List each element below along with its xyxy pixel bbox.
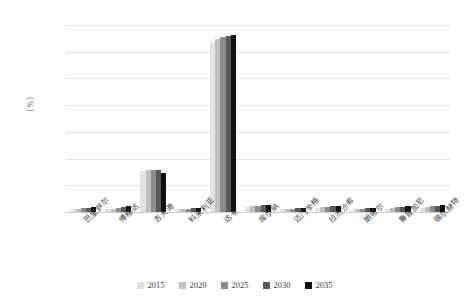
bar-group xyxy=(345,25,380,212)
bar-group xyxy=(310,25,345,212)
legend-item[interactable]: 2030 xyxy=(263,281,291,290)
x-axis-label-cell: 迈门辛格 xyxy=(275,213,310,271)
legend: 20152020202520302035 xyxy=(0,281,469,290)
bar-chart: （%） 0.05.010.015.020.025.030.035.0 巴里萨尔博… xyxy=(0,0,469,307)
bar-set xyxy=(315,25,341,212)
legend-item[interactable]: 2020 xyxy=(179,281,207,290)
x-axis-label-cell: 锡尔赫特 xyxy=(415,213,450,271)
bar-group xyxy=(171,25,206,212)
bar-set xyxy=(280,25,306,212)
x-axis-label-cell: 达卡 xyxy=(206,213,241,271)
bar-set xyxy=(210,25,236,212)
bar-group xyxy=(241,25,276,212)
bar-groups xyxy=(66,25,450,212)
bar-group xyxy=(415,25,450,212)
bar-group xyxy=(136,25,171,212)
legend-swatch xyxy=(305,282,312,289)
bar-group xyxy=(101,25,136,212)
legend-label: 2020 xyxy=(190,281,207,290)
bar-group xyxy=(66,25,101,212)
x-axis-category-labels: 巴里萨尔博格达吉大港科米利亚达卡库尔纳迈门辛格拉杰沙希朗布尔鲁普加尼锡尔赫特 xyxy=(66,213,450,271)
bar-group xyxy=(275,25,310,212)
legend-label: 2030 xyxy=(274,281,291,290)
x-axis-label-cell: 科米利亚 xyxy=(171,213,206,271)
x-axis-label-cell: 库尔纳 xyxy=(241,213,276,271)
legend-item[interactable]: 2025 xyxy=(221,281,249,290)
bar-set xyxy=(420,25,446,212)
legend-item[interactable]: 2035 xyxy=(305,281,333,290)
legend-swatch xyxy=(137,282,144,289)
legend-label: 2025 xyxy=(232,281,249,290)
x-axis-label-cell: 鲁普加尼 xyxy=(380,213,415,271)
x-axis-label-cell: 博格达 xyxy=(101,213,136,271)
legend-item[interactable]: 2015 xyxy=(137,281,165,290)
x-axis-label-cell: 巴里萨尔 xyxy=(66,213,101,271)
legend-label: 2035 xyxy=(316,281,333,290)
bar-set xyxy=(71,25,97,212)
bar-set xyxy=(175,25,201,212)
y-axis-title: （%） xyxy=(23,74,35,134)
bar-group xyxy=(380,25,415,212)
x-axis-label-cell: 吉大港 xyxy=(136,213,171,271)
bar-set xyxy=(245,25,271,212)
plot-area xyxy=(66,25,450,212)
bar-group xyxy=(206,25,241,212)
bar-set xyxy=(140,25,166,212)
bar-set xyxy=(350,25,376,212)
legend-swatch xyxy=(179,282,186,289)
bar xyxy=(231,35,236,212)
bar-set xyxy=(385,25,411,212)
legend-label: 2015 xyxy=(148,281,165,290)
legend-swatch xyxy=(263,282,270,289)
bar-set xyxy=(105,25,131,212)
x-axis-label-cell: 朗布尔 xyxy=(345,213,380,271)
x-axis-label-cell: 拉杰沙希 xyxy=(310,213,345,271)
legend-swatch xyxy=(221,282,228,289)
